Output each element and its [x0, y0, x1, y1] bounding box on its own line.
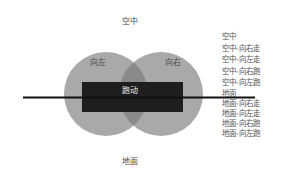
bottom-label-ground: 地面	[122, 155, 138, 166]
state-item: 空中	[222, 31, 260, 43]
state-item: 地面	[222, 89, 260, 99]
state-item: 空中-向右跑	[222, 66, 260, 78]
state-item: 地面-向左跑	[222, 129, 260, 139]
left-circle-label: 向左	[90, 56, 106, 67]
state-item: 空中-向右走	[222, 43, 260, 55]
center-label-run: 跑动	[122, 84, 138, 95]
ground-line	[23, 97, 255, 99]
state-item: 地面-向左走	[222, 109, 260, 119]
state-item: 空中-向左跑	[222, 77, 260, 89]
state-item: 空中-向左走	[222, 54, 260, 66]
right-circle-label: 向右	[165, 56, 181, 67]
state-item: 地面-向右跑	[222, 119, 260, 129]
state-list: 空中 空中-向右走 空中-向左走 空中-向右跑 空中-向左跑 地面 地面-向右走…	[222, 31, 260, 139]
state-item: 地面-向右走	[222, 99, 260, 109]
